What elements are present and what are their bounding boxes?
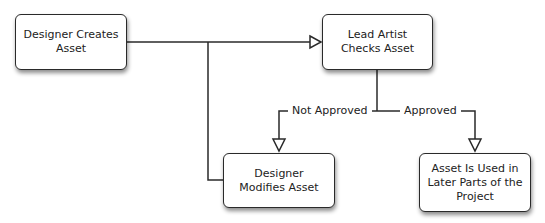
node-label: Designer Creates Asset xyxy=(22,28,120,56)
arrowhead-right-icon xyxy=(310,36,321,48)
edge-modify-to-check xyxy=(208,42,223,180)
node-lead-artist-checks-asset: Lead Artist Checks Asset xyxy=(322,14,433,70)
edge-approved xyxy=(460,111,475,139)
node-designer-creates-asset: Designer Creates Asset xyxy=(15,14,127,70)
arrowhead-down-icon xyxy=(469,139,481,151)
edge-label-approved: Approved xyxy=(400,104,461,117)
node-designer-modifies-asset: Designer Modifies Asset xyxy=(223,153,335,208)
arrowhead-down-icon xyxy=(273,139,285,151)
node-asset-used-later: Asset Is Used in Later Parts of the Proj… xyxy=(419,153,531,212)
edge-label-not-approved: Not Approved xyxy=(288,104,372,117)
node-label: Lead Artist Checks Asset xyxy=(329,28,426,56)
node-label: Asset Is Used in Later Parts of the Proj… xyxy=(426,162,524,204)
node-label: Designer Modifies Asset xyxy=(230,167,328,195)
